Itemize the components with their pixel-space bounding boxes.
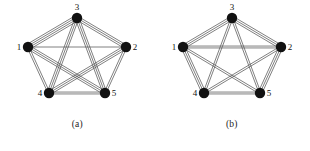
graph-edge [231,20,280,49]
graph-edge [183,20,232,49]
graph-node-1 [23,42,33,52]
node-label-5: 5 [112,88,117,98]
graph-edge [261,48,282,94]
graph-edge [260,47,281,93]
graph-node-4 [44,88,54,98]
graph-edge [28,19,77,48]
graph-edge [79,17,107,92]
node-label-3: 3 [229,2,234,12]
graph-edge [232,16,281,45]
node-label-1: 1 [171,42,176,52]
graph-node-2 [275,42,285,52]
graph-edge [106,47,127,93]
graph-edge [183,47,204,93]
graph-a: 31245 [0,0,155,115]
graph-node-5 [254,88,264,98]
graph-node-4 [198,88,208,98]
node-label-2: 2 [133,42,138,52]
caption-b: (b) [155,119,310,129]
node-label-5: 5 [266,88,271,98]
graph-edge [27,47,48,93]
graph-node-3 [72,13,82,23]
graph-node-3 [226,13,236,23]
graph-edge [75,19,103,94]
graph-edge [29,20,78,49]
caption-a: (a) [0,119,155,129]
graph-node-5 [100,88,110,98]
node-label-4: 4 [38,88,43,98]
graph-edge [28,17,77,46]
node-label-1: 1 [17,42,22,52]
graph-edge [77,18,105,93]
multigraph-b-canvas: 31245 [155,0,310,115]
node-label-3: 3 [75,2,80,12]
graph-edge [182,16,231,45]
graph-edge [232,18,281,47]
edge-layer [181,16,282,94]
node-label-4: 4 [192,88,197,98]
graph-edge [181,48,202,94]
node-layer: 31245 [17,2,138,98]
multigraph-a-canvas: 31245 [0,0,155,115]
panel-a: 31245 (a) [0,0,155,151]
graph-node-2 [121,42,131,52]
edge-layer [27,16,127,95]
graph-edge [183,18,232,47]
node-label-2: 2 [287,42,292,52]
graph-b: 31245 [155,0,310,115]
figure-pair: 31245 (a) 31245 (b) [0,0,309,151]
graph-node-1 [177,42,187,52]
graph-edge [27,16,76,45]
panel-b: 31245 (b) [155,0,310,151]
